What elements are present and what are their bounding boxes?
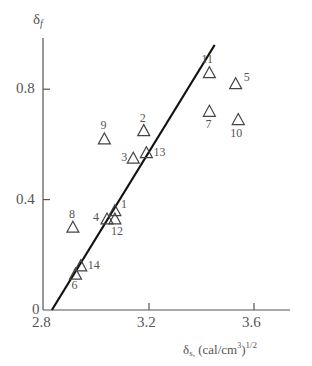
x-tick-label: 3.6 xyxy=(242,315,261,330)
triangle-marker xyxy=(127,152,139,163)
point-label: 14 xyxy=(88,259,100,271)
y-tick-label: 0 xyxy=(32,302,40,317)
point-label: 10 xyxy=(230,127,242,139)
axes xyxy=(43,38,290,310)
x-axis-subscript: s, xyxy=(189,348,195,358)
x-tick-label: 2.8 xyxy=(32,315,51,330)
point-label: 8 xyxy=(69,208,75,220)
y-axis-subscript: f xyxy=(40,18,43,29)
triangle-marker xyxy=(67,221,79,232)
y-tick-label: 0.8 xyxy=(16,81,35,96)
point-label: 9 xyxy=(100,119,106,131)
triangle-marker xyxy=(98,133,110,144)
x-axis-units: (cal/cm xyxy=(198,342,237,357)
triangle-marker xyxy=(138,125,150,136)
point-label: 11 xyxy=(201,53,213,65)
ticks xyxy=(43,89,254,310)
scatter-chart xyxy=(0,0,312,366)
point-label: 5 xyxy=(244,71,250,83)
triangle-marker xyxy=(203,67,215,78)
point-label: 6 xyxy=(72,279,78,291)
data-points xyxy=(67,67,244,279)
y-axis-label: δf xyxy=(33,12,43,29)
x-axis-label: δs, (cal/cm3)1/2 xyxy=(183,341,257,358)
point-label: 3 xyxy=(121,151,127,163)
x-axis-units-exponent: 1/2 xyxy=(245,340,257,350)
point-label: 2 xyxy=(140,112,146,124)
point-label: 13 xyxy=(153,146,165,158)
triangle-marker xyxy=(232,114,244,125)
point-label: 7 xyxy=(205,118,211,130)
point-label: 12 xyxy=(111,225,123,237)
point-label: 1 xyxy=(121,198,127,210)
point-label: 4 xyxy=(93,211,99,223)
x-tick-label: 3.2 xyxy=(137,315,156,330)
y-tick-label: 0.4 xyxy=(16,192,35,207)
triangle-marker xyxy=(230,78,242,89)
triangle-marker xyxy=(203,105,215,116)
